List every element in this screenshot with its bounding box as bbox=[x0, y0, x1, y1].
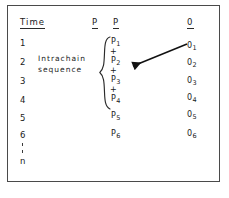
annotation-line-2: sequence bbox=[38, 66, 82, 74]
time-value: 1 bbox=[20, 39, 26, 48]
o-term-sub: 1 bbox=[192, 44, 196, 52]
o-term: 06 bbox=[187, 130, 197, 139]
column-header-p-left: P bbox=[92, 18, 98, 29]
o-term-sub: 2 bbox=[192, 61, 196, 69]
annotation-line-1: Intrachain bbox=[38, 55, 86, 63]
plus-operator: + bbox=[110, 86, 117, 94]
arrow-icon bbox=[126, 40, 190, 74]
plus-operator: + bbox=[110, 48, 117, 56]
o-term: 04 bbox=[187, 94, 197, 103]
p-term: P2 bbox=[111, 57, 120, 66]
column-header-o: 0 bbox=[187, 18, 194, 29]
plus-operator: + bbox=[110, 67, 117, 75]
time-value: 3 bbox=[20, 77, 26, 86]
p-term-sub: 5 bbox=[116, 114, 120, 122]
p-term-sub: 6 bbox=[116, 132, 120, 140]
o-term-sub: 6 bbox=[192, 132, 196, 140]
p-term: P6 bbox=[111, 130, 120, 139]
o-term-sub: 5 bbox=[192, 113, 196, 121]
time-ellipsis-dot bbox=[22, 150, 23, 153]
time-value: 5 bbox=[20, 114, 26, 123]
p-term: P5 bbox=[111, 112, 120, 121]
time-value: 6 bbox=[20, 131, 26, 140]
o-term: 05 bbox=[187, 111, 197, 120]
o-term-sub: 3 bbox=[192, 79, 196, 87]
p-term: P3 bbox=[111, 76, 120, 85]
column-header-time: Time bbox=[20, 18, 45, 29]
time-value: 2 bbox=[20, 58, 26, 67]
p-term: P4 bbox=[111, 95, 120, 104]
p-term: P1 bbox=[111, 38, 120, 47]
figure-canvas: Time P P 0 1 2 3 4 5 6 n Intrachain sequ… bbox=[0, 0, 229, 198]
time-value: 4 bbox=[20, 96, 26, 105]
o-term-sub: 4 bbox=[192, 96, 196, 104]
o-term: 03 bbox=[187, 77, 197, 86]
column-header-p-right: P bbox=[113, 18, 119, 29]
p-term-sub: 4 bbox=[116, 97, 120, 105]
time-ellipsis-dot bbox=[22, 143, 23, 146]
time-value-n: n bbox=[20, 157, 26, 166]
